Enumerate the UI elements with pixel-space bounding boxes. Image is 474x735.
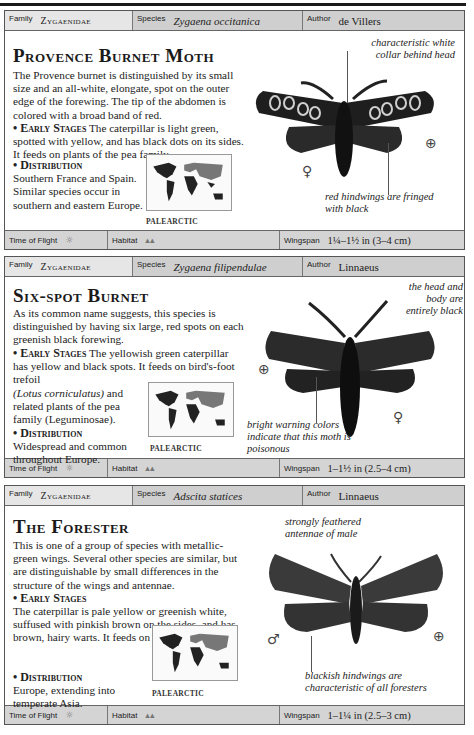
species-value: Zygaena filipendulae [173,261,266,273]
wingspan-value: 1–1¼ in (2.5–3 cm) [328,710,411,721]
time-of-flight-label: Time of Flight [9,236,57,245]
map-region-label: PALEARCTIC [152,689,204,698]
family-value: Zygaenidae [41,261,91,272]
world-map-thumbnail [146,154,232,211]
species-cell: Species Zygaena occitanica [133,11,303,30]
author-label: Author [307,489,331,498]
magnify-icon[interactable]: ⊕ [258,361,270,377]
family-label: Family [9,489,33,498]
map-region-label: PALEARCTIC [146,217,198,226]
annotation-hindwings: red hindwings are fringed with black [325,191,445,215]
wingspan-label: Wingspan [284,464,320,473]
distribution-text: Widespread and common throughout Europe. [13,440,127,465]
sun-icon: ☼ [65,235,73,245]
magnify-icon[interactable]: ⊕ [433,628,445,644]
annotation-antennae: strongly feathered antennae of male [285,516,395,540]
early-stages-continued: (Lotus corniculatus) and related plants … [13,387,143,466]
family-value: Zygaenidae [41,15,91,26]
description-text: The Provence burnet is distinguished by … [13,69,233,121]
time-of-flight-label: Time of Flight [9,711,57,720]
distribution-heading: • Distribution [13,670,82,684]
entry-header: Family Zygaenidae Species Zygaena occita… [5,11,464,31]
habitat-icon: ▴▴ [145,463,154,473]
habitat-cell: Habitat ▴▴ [108,231,280,249]
distribution-block: • Distribution Southern France and Spain… [13,159,143,212]
sun-icon: ☼ [65,710,73,720]
habitat-label: Habitat [112,711,137,720]
distribution-block: • Distribution Europe, extending into te… [13,671,143,711]
distribution-heading: • Distribution [13,158,82,172]
entry-body: Six-spot Burnet As its common name sugge… [5,277,464,458]
annotation-collar: characteristic white collar behind head [345,37,455,61]
habitat-icon: ▴▴ [145,235,154,245]
author-value: Linnaeus [339,490,379,502]
author-value: Linnaeus [339,261,379,273]
family-label: Family [9,260,33,269]
annotation-leader [316,377,317,423]
entry-description: The Provence burnet is distinguished by … [13,69,245,161]
female-symbol-icon: ♀ [302,163,312,179]
female-symbol-icon: ♀ [393,409,403,425]
distribution-text: Southern France and Spain. Similar speci… [13,172,143,210]
annotation-hindwings: blackish hindwings are characteristic of… [305,670,445,694]
distribution-heading: • Distribution [13,426,82,440]
family-label: Family [9,14,33,23]
wingspan-value: 1–1½ in (2.5–4 cm) [328,463,411,474]
world-map-thumbnail [148,382,234,437]
family-cell: Family Zygaenidae [5,257,133,276]
early-stages-latin: (Lotus corniculatus) [13,387,104,399]
moth-image [253,69,453,189]
species-value: Zygaena occitanica [173,15,259,27]
map-region-label: PALEARCTIC [150,444,202,453]
entry-title: The Forester [13,516,129,538]
wingspan-cell: Wingspan 1¼–1½ in (3–4 cm) [280,231,464,249]
early-stages-heading: • Early Stages [13,121,86,135]
author-cell: Author Linnaeus [303,486,464,505]
wingspan-value: 1¼–1½ in (3–4 cm) [328,235,411,246]
description-text: This is one of a group of species with m… [13,539,237,591]
early-stages-heading: • Early Stages [13,591,86,605]
entry-title: Six-spot Burnet [13,285,149,307]
annotation-leader [311,636,312,672]
entry-header: Family Zygaenidae Species Adscita static… [5,486,464,506]
entry-body: The Forester This is one of a group of s… [5,506,464,705]
entry-description: As its common name suggests, this specie… [13,307,245,386]
habitat-icon: ▴▴ [145,710,154,720]
species-label: Species [137,489,165,498]
family-cell: Family Zygaenidae [5,486,133,505]
time-of-flight-cell: Time of Flight ☼ [5,231,108,249]
entry-description: This is one of a group of species with m… [13,539,245,605]
early-stages-heading: • Early Stages [13,346,86,360]
annotation-leader [347,51,348,103]
annotation-head-body: the head and body are entirely black [395,281,463,317]
wingspan-cell: Wingspan 1–1¼ in (2.5–3 cm) [280,706,464,724]
top-rule [0,3,466,6]
family-value: Zygaenidae [41,490,91,501]
species-label: Species [137,260,165,269]
wingspan-label: Wingspan [284,711,320,720]
author-label: Author [307,14,331,23]
entry-title: Provence Burnet Moth [13,45,214,67]
entry-footer: Time of Flight ☼ Habitat ▴▴ Wingspan 1¼–… [5,230,464,249]
annotation-leader [388,143,389,195]
species-label: Species [137,14,165,23]
author-cell: Author Linnaeus [303,257,464,276]
annotation-warning-colors: bright warning colors indicate that this… [247,419,357,455]
wingspan-label: Wingspan [284,236,320,245]
description-text: As its common name suggests, this specie… [13,307,244,345]
author-value: de Villers [339,15,381,27]
species-entry-six-spot-burnet: Family Zygaenidae Species Zygaena filipe… [4,256,465,478]
world-map-thumbnail [152,625,238,681]
entry-header: Family Zygaenidae Species Zygaena filipe… [5,257,464,277]
magnify-icon[interactable]: ⊕ [425,135,437,151]
entry-body: Provence Burnet Moth The Provence burnet… [5,31,464,230]
species-cell: Species Zygaena filipendulae [133,257,303,276]
habitat-label: Habitat [112,236,137,245]
species-entry-provence-burnet: Family Zygaenidae Species Zygaena occita… [4,10,465,250]
moth-image [267,546,447,666]
distribution-text: Europe, extending into temperate Asia. [13,684,115,709]
species-entry-forester: Family Zygaenidae Species Adscita static… [4,485,465,725]
author-label: Author [307,260,331,269]
wingspan-cell: Wingspan 1–1½ in (2.5–4 cm) [280,459,464,477]
author-cell: Author de Villers [303,11,464,30]
